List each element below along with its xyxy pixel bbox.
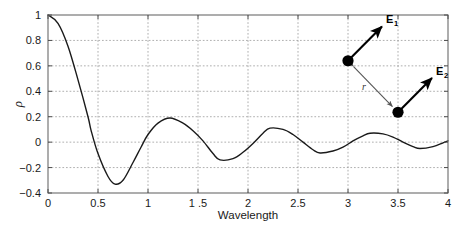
y-tick-label: −0.4 xyxy=(19,187,41,199)
x-tick-label: 0 xyxy=(45,197,51,209)
y-tick-label: 0.8 xyxy=(26,34,41,46)
x-tick-label: 1 .5 xyxy=(189,197,207,209)
damped-oscillation-plot: 00.511 .522.533.54 −0.4−0.200.20.40.60.8… xyxy=(0,0,464,234)
y-tick-label: 0.2 xyxy=(26,111,41,123)
y-tick-label: 0 xyxy=(35,136,41,148)
dipole-1-marker xyxy=(342,55,353,66)
x-tick-label: 1 xyxy=(145,197,151,209)
y-tick-label: 0.4 xyxy=(26,85,41,97)
y-tick-label: 1 xyxy=(35,9,41,21)
y-tick-label: −0.2 xyxy=(19,162,41,174)
x-tick-label: 4 xyxy=(445,197,451,209)
x-tick-label: 2.5 xyxy=(290,197,305,209)
y-axis-title: ρ xyxy=(10,101,25,108)
x-tick-label: 2 xyxy=(245,197,251,209)
dipole-2-label: E xyxy=(436,65,443,77)
x-tick-label: 3.5 xyxy=(390,197,405,209)
separation-label: r xyxy=(362,81,366,92)
y-tick-label: 0.6 xyxy=(26,60,41,72)
dipole-2-marker xyxy=(392,107,403,118)
dipole-1-label: E xyxy=(386,13,393,25)
figure-container: 00.511 .522.533.54 −0.4−0.200.20.40.60.8… xyxy=(0,0,464,234)
x-tick-label: 0.5 xyxy=(90,197,105,209)
x-tick-label: 3 xyxy=(345,197,351,209)
dipole-1-subscript: 1 xyxy=(394,19,398,28)
x-axis-title: Wavelength xyxy=(218,209,278,221)
dipole-2-subscript: 2 xyxy=(444,71,448,80)
